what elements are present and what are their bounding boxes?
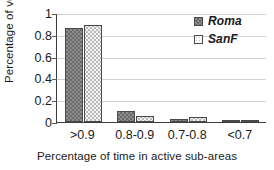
y-tick-mark [52, 123, 57, 124]
y-axis-tick-labels: 00.20.40.60.81 [14, 14, 52, 123]
bar-group [117, 14, 154, 122]
legend: Roma SanF [194, 12, 268, 48]
y-tick-label: 1 [14, 8, 52, 20]
bar-sanf-0 [84, 25, 102, 122]
bar-sanf-2 [189, 117, 207, 122]
y-tick-label: 0 [14, 117, 52, 129]
bar-chart-figure: Percentage of vehicles 00.20.40.60.81 Ro… [0, 0, 274, 170]
legend-item-sanf: SanF [194, 30, 268, 48]
y-tick-label: 0.4 [14, 73, 52, 85]
legend-swatch-roma-icon [194, 17, 203, 26]
legend-label-roma: Roma [208, 14, 242, 28]
y-tick-label: 0.2 [14, 95, 52, 107]
x-tick-label: >0.9 [56, 128, 109, 142]
legend-swatch-sanf-icon [194, 35, 203, 44]
bar-roma-3 [222, 120, 240, 122]
bar-group [65, 14, 102, 122]
x-axis-title: Percentage of time in active sub-areas [0, 150, 274, 162]
bar-roma-0 [65, 28, 83, 122]
x-axis-tick-labels: >0.90.8-0.90.7-0.8<0.7 [56, 128, 266, 144]
bar-roma-1 [117, 111, 135, 122]
legend-label-sanf: SanF [208, 32, 238, 46]
x-tick-label: 0.8-0.9 [109, 128, 162, 142]
bar-sanf-1 [136, 116, 154, 122]
y-tick-label: 0.6 [14, 52, 52, 64]
y-tick-label: 0.8 [14, 30, 52, 42]
bar-roma-2 [170, 119, 188, 122]
x-tick-label: <0.7 [214, 128, 267, 142]
x-tick-label: 0.7-0.8 [161, 128, 214, 142]
legend-item-roma: Roma [194, 12, 268, 30]
bar-sanf-3 [241, 120, 259, 122]
